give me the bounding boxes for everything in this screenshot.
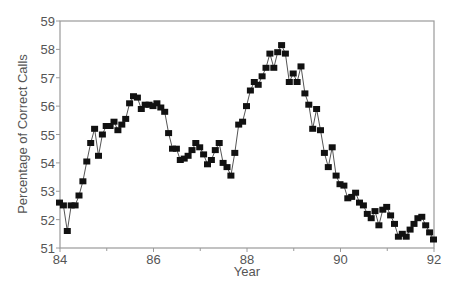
data-point-marker — [208, 157, 215, 163]
data-point-marker — [118, 122, 125, 128]
data-point-marker — [321, 150, 328, 156]
data-point-marker — [329, 144, 336, 150]
data-point-marker — [243, 103, 250, 109]
data-point-marker — [64, 228, 71, 234]
data-point-marker — [387, 212, 394, 218]
data-point-marker — [266, 51, 273, 57]
data-point-marker — [375, 222, 382, 228]
y-tick-label: 56 — [41, 99, 55, 114]
data-point-marker — [340, 183, 347, 189]
data-point-marker — [83, 159, 90, 165]
y-tick-label: 54 — [41, 156, 55, 171]
data-point-marker — [247, 88, 254, 94]
data-point-marker — [313, 106, 320, 112]
data-point-marker — [430, 237, 437, 243]
data-point-marker — [368, 215, 375, 221]
data-point-marker — [196, 144, 203, 150]
data-point-marker — [403, 234, 410, 240]
data-point-marker — [231, 150, 238, 156]
data-point-marker — [352, 190, 359, 196]
x-tick-label: 84 — [53, 252, 67, 267]
x-tick-label: 90 — [333, 252, 347, 267]
data-point-marker — [72, 202, 79, 208]
y-tick-label: 57 — [41, 71, 55, 86]
data-point-marker — [325, 164, 332, 170]
data-point-marker — [263, 65, 270, 71]
y-tick-label: 52 — [41, 213, 55, 228]
data-point-marker — [422, 222, 429, 228]
x-tick-label: 86 — [146, 252, 160, 267]
data-point-marker — [91, 126, 98, 132]
data-point-marker — [305, 102, 312, 108]
data-point-marker — [79, 178, 86, 184]
data-point-marker — [333, 173, 340, 179]
y-axis-title: Percentage of Correct Calls — [15, 54, 30, 214]
x-axis-title: Year — [234, 264, 261, 279]
data-point-marker — [301, 90, 308, 96]
data-point-marker — [255, 82, 262, 88]
data-point-marker — [282, 51, 289, 57]
data-point-marker — [309, 126, 316, 132]
data-point-marker — [259, 73, 266, 79]
data-point-marker — [227, 173, 234, 179]
data-point-marker — [161, 109, 168, 115]
y-tick-label: 53 — [41, 184, 55, 199]
y-tick-label: 58 — [41, 42, 55, 57]
data-point-marker — [286, 79, 293, 85]
data-point-marker — [383, 204, 390, 210]
data-point-marker — [239, 119, 246, 125]
data-markers — [56, 42, 437, 242]
data-point-marker — [76, 193, 83, 199]
y-tick-label: 59 — [41, 14, 55, 29]
line-chart: 515253545556575859 8486889092 Year Perce… — [0, 0, 460, 291]
data-point-marker — [95, 153, 102, 159]
data-point-marker — [173, 146, 180, 152]
data-point-marker — [426, 229, 433, 235]
data-point-marker — [99, 132, 106, 138]
data-point-marker — [165, 130, 172, 136]
y-tick-label: 55 — [41, 128, 55, 143]
data-point-marker — [407, 227, 414, 233]
data-point-marker — [224, 164, 231, 170]
data-point-marker — [60, 202, 67, 208]
data-point-marker — [200, 151, 207, 157]
data-point-marker — [216, 140, 223, 146]
data-point-marker — [185, 153, 192, 159]
data-point-marker — [111, 119, 118, 125]
data-point-marker — [298, 63, 305, 69]
data-point-marker — [278, 42, 285, 48]
data-point-marker — [391, 221, 398, 227]
x-tick-label: 92 — [427, 252, 441, 267]
data-point-marker — [189, 147, 196, 153]
data-point-marker — [411, 221, 418, 227]
y-axis: 515253545556575859 — [41, 14, 60, 256]
data-point-marker — [126, 100, 133, 106]
data-point-marker — [418, 214, 425, 220]
data-point-marker — [372, 208, 379, 214]
data-point-marker — [122, 116, 129, 122]
data-point-marker — [317, 127, 324, 133]
data-point-marker — [294, 79, 301, 85]
data-point-marker — [270, 65, 277, 71]
data-point-marker — [212, 147, 219, 153]
data-point-marker — [360, 202, 367, 208]
data-point-marker — [274, 49, 281, 55]
data-point-marker — [114, 127, 121, 133]
data-point-marker — [290, 71, 297, 77]
data-point-marker — [87, 140, 94, 146]
data-point-marker — [134, 95, 141, 101]
